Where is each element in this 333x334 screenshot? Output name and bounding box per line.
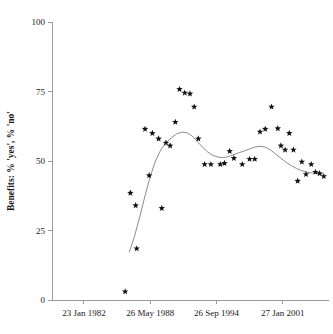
data-point-marker	[182, 89, 188, 95]
data-point-marker	[221, 160, 227, 166]
x-tick-group: 23 Jan 198226 May 198826 Sep 199427 Jan …	[62, 300, 304, 318]
data-point-marker	[201, 161, 207, 167]
x-tick-label: 23 Jan 1982	[62, 308, 106, 318]
data-point-marker	[122, 288, 128, 294]
scatter-chart: 0255075100 23 Jan 198226 May 198826 Sep …	[0, 0, 333, 334]
data-point-marker	[268, 103, 274, 109]
x-tick-label: 27 Jan 2001	[261, 308, 305, 318]
data-point-marker	[286, 130, 292, 136]
data-point-marker	[275, 125, 281, 131]
data-point-marker	[133, 245, 139, 251]
data-point-marker	[208, 161, 214, 167]
data-point-marker	[246, 156, 252, 162]
data-point-marker	[278, 142, 284, 148]
data-point-group	[122, 86, 327, 295]
y-tick-group: 0255075100	[32, 17, 53, 305]
data-point-marker	[142, 126, 148, 132]
y-axis-label: Benefits: % 'yes', % 'no'	[6, 111, 16, 211]
y-tick-label: 75	[36, 87, 46, 97]
data-point-marker	[187, 90, 193, 96]
data-point-marker	[257, 128, 263, 134]
data-point-marker	[191, 103, 197, 109]
data-point-marker	[167, 142, 173, 148]
data-point-marker	[226, 148, 232, 154]
data-point-marker	[239, 161, 245, 167]
data-point-marker	[299, 158, 305, 164]
y-tick-label: 0	[41, 295, 46, 305]
y-tick-label: 50	[36, 156, 46, 166]
x-tick-label: 26 May 1988	[126, 308, 174, 318]
data-point-marker	[159, 205, 165, 211]
axes-group	[52, 22, 329, 300]
data-point-marker	[217, 161, 223, 167]
data-point-marker	[149, 130, 155, 136]
x-tick-label: 26 Sep 1994	[194, 308, 240, 318]
data-point-marker	[308, 161, 314, 167]
y-axis-label-text: Benefits: % 'yes', % 'no'	[6, 111, 16, 211]
y-tick-label: 25	[36, 226, 46, 236]
data-point-marker	[294, 178, 300, 184]
y-tick-label: 100	[32, 17, 46, 27]
data-point-marker	[282, 146, 288, 152]
chart-container: 0255075100 23 Jan 198226 May 198826 Sep …	[0, 0, 333, 334]
data-point-marker	[132, 202, 138, 208]
data-point-marker	[172, 119, 178, 125]
data-point-marker	[252, 156, 258, 162]
data-point-marker	[290, 146, 296, 152]
data-point-marker	[127, 190, 133, 196]
data-point-marker	[176, 86, 182, 92]
data-point-marker	[155, 135, 161, 141]
